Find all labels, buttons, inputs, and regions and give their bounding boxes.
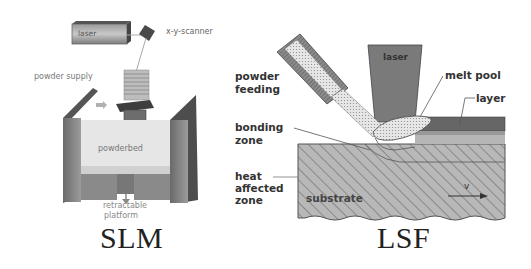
bonding-zone-label-line2: zone — [235, 134, 263, 146]
haz-label-line3: zone — [235, 194, 263, 206]
powder-arrow-icon — [96, 101, 107, 109]
melt-pool-label: melt pool — [445, 69, 501, 81]
bonding-zone-label-line1: bonding — [235, 121, 283, 133]
slm-laser-label: laser — [78, 29, 96, 38]
build-layers-icon — [124, 70, 149, 100]
platform-label-line2: platform — [104, 211, 138, 220]
powder-feeding-label-line1: powder — [235, 70, 279, 82]
scanner-mirror-icon — [139, 25, 155, 41]
substrate-label: substrate — [306, 192, 363, 204]
scanner-label: x-y-scanner — [166, 27, 213, 36]
slm-caption: SLM — [100, 221, 163, 255]
layer-label: layer — [476, 92, 506, 104]
powder-supply-label: powder supply — [34, 72, 93, 81]
lsf-caption: LSF — [377, 221, 430, 255]
substrate-block — [298, 144, 505, 220]
haz-label-line2: affected — [235, 182, 284, 194]
platform-label-line1: retractable — [103, 201, 147, 210]
haz-label-line1: heat — [235, 170, 262, 182]
velocity-label: v — [464, 181, 469, 191]
powderbed-label: powderbed — [98, 144, 143, 153]
powder-feeding-label-line2: feeding — [235, 83, 280, 95]
lsf-laser-label: laser — [383, 52, 408, 62]
slm-panel: laser x-y-scanner powder supply powderbe… — [0, 0, 265, 269]
lsf-panel: laser powder feeding melt pool layer bon… — [265, 0, 531, 269]
